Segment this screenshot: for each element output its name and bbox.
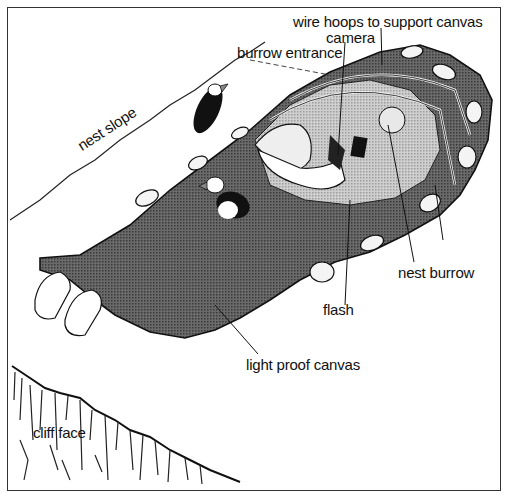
label-flash: flash [323, 302, 354, 317]
label-light-proof-canvas: light proof canvas [246, 357, 360, 372]
light-proof-canvas-shape [40, 45, 492, 338]
label-cliff-face: cliff face [33, 425, 86, 440]
label-wire-hoops: wire hoops to support canvas [293, 14, 483, 29]
label-nest-burrow: nest burrow [398, 265, 474, 280]
label-camera: camera [326, 30, 375, 45]
label-burrow-entrance: burrow entrance [237, 45, 342, 60]
